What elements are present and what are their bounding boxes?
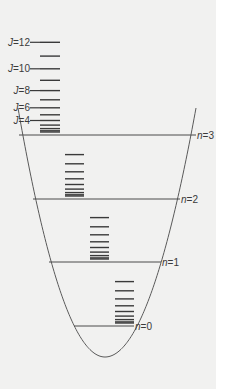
potential-well-curve xyxy=(18,108,196,357)
n-label: n=3 xyxy=(197,130,214,141)
j-label: J=10 xyxy=(7,63,30,74)
diagram-canvas: J=12J=10J=8J=6J=4 n=0n=1n=2n=3 xyxy=(0,0,226,389)
j-label: J=4 xyxy=(13,115,31,126)
n-labels: n=0n=1n=2n=3 xyxy=(135,130,214,332)
j-label: J=8 xyxy=(13,85,31,96)
j-label: J=6 xyxy=(13,102,31,113)
right-margin xyxy=(216,0,226,389)
energy-diagram: J=12J=10J=8J=6J=4 n=0n=1n=2n=3 xyxy=(0,0,226,389)
j-labels: J=12J=10J=8J=6J=4 xyxy=(7,37,40,126)
n-label: n=0 xyxy=(135,321,152,332)
n-label: n=2 xyxy=(181,194,198,205)
rotational-ladders xyxy=(40,42,134,323)
n-label: n=1 xyxy=(162,257,179,268)
j-label: J=12 xyxy=(7,37,30,48)
